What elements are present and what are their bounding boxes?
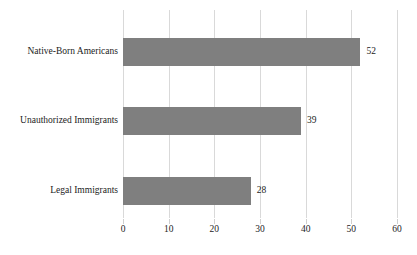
bar (123, 38, 360, 66)
x-axis: 0102030405060 (123, 219, 397, 243)
bar (123, 107, 301, 135)
bar-row: 39 (123, 107, 397, 135)
bar-row: 28 (123, 177, 397, 205)
x-tick-label: 20 (210, 225, 220, 235)
bar-value-label: 28 (257, 186, 267, 196)
category-axis: Native-Born AmericansUnauthorized Immigr… (0, 0, 118, 255)
x-tick-label: 0 (121, 225, 126, 235)
bar-chart: 523928 Native-Born AmericansUnauthorized… (0, 0, 417, 255)
category-label: Legal Immigrants (2, 186, 118, 196)
x-tick-label: 10 (164, 225, 174, 235)
category-label: Unauthorized Immigrants (2, 116, 118, 126)
bar-row: 52 (123, 38, 397, 66)
bar (123, 177, 251, 205)
x-tick-label: 50 (347, 225, 357, 235)
category-label: Native-Born Americans (2, 47, 118, 57)
x-tick-label: 40 (301, 225, 311, 235)
bar-value-label: 52 (366, 47, 376, 57)
plot-area: 523928 (123, 10, 397, 218)
x-tick-label: 60 (392, 225, 402, 235)
gridline-60 (397, 10, 398, 218)
bar-value-label: 39 (307, 116, 317, 126)
x-tick-label: 30 (255, 225, 265, 235)
